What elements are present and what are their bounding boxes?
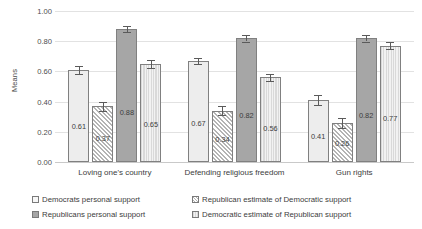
legend-item[interactable]: Democrats personal support	[32, 194, 192, 205]
error-bar-cap	[123, 32, 131, 33]
bar-value-label: 0.88	[117, 108, 136, 117]
bar-value-label: 0.65	[141, 120, 160, 129]
y-tick-label: 0.00	[10, 158, 52, 167]
gridline	[55, 162, 414, 163]
plot-area: 0.610.370.880.650.670.340.820.560.410.26…	[55, 11, 414, 162]
bar-value-label: 0.82	[237, 111, 256, 120]
legend-row: Democrats personal supportRepublican est…	[32, 194, 422, 205]
bar-value-label: 0.61	[69, 122, 88, 131]
error-bar-cap	[147, 68, 155, 69]
error-bar-cap	[266, 81, 274, 82]
error-bar-cap	[314, 95, 322, 96]
error-bar-cap	[99, 102, 107, 103]
error-bar	[342, 118, 343, 128]
error-bar-cap	[386, 42, 394, 43]
error-bar-cap	[194, 58, 202, 59]
legend-item[interactable]: Democratic estimate of Republican suppor…	[192, 209, 422, 220]
legend-swatch-icon	[192, 211, 199, 218]
category-label: Defending religious freedom	[175, 168, 295, 177]
error-bar-cap	[338, 128, 346, 129]
bar: 0.41	[308, 100, 329, 162]
category-label: Loving one's country	[55, 168, 175, 177]
bar-value-label: 0.82	[357, 111, 376, 120]
error-bar	[151, 60, 152, 68]
legend-label: Republican estimate of Democratic suppor…	[202, 194, 351, 205]
y-tick-label: 0.80	[10, 37, 52, 46]
bar-group: 0.410.260.820.77	[294, 11, 414, 162]
error-bar-cap	[314, 105, 322, 106]
category-label: Gun rights	[294, 168, 414, 177]
error-bar	[79, 66, 80, 74]
bar: 0.77	[380, 46, 401, 162]
error-bar-cap	[218, 115, 226, 116]
y-tick-label: 0.20	[10, 127, 52, 136]
error-bar-cap	[147, 60, 155, 61]
legend-item[interactable]: Republicans personal support	[32, 209, 192, 220]
legend-swatch-icon	[192, 196, 199, 203]
error-bar-cap	[266, 74, 274, 75]
error-bar-cap	[194, 64, 202, 65]
error-bar	[222, 106, 223, 114]
error-bar-cap	[218, 106, 226, 107]
legend-label: Democrats personal support	[42, 194, 140, 205]
bar-value-label: 0.41	[309, 132, 328, 141]
bar: 0.26	[332, 123, 353, 162]
bar: 0.65	[140, 64, 161, 162]
y-tick-label: 0.40	[10, 97, 52, 106]
bar: 0.88	[116, 29, 137, 162]
error-bar-cap	[386, 49, 394, 50]
legend-label: Democratic estimate of Republican suppor…	[202, 209, 351, 220]
error-bar-cap	[362, 35, 370, 36]
bar: 0.61	[68, 70, 89, 162]
bar-value-label: 0.34	[213, 135, 232, 144]
error-bar-cap	[338, 118, 346, 119]
legend-item[interactable]: Republican estimate of Democratic suppor…	[192, 194, 422, 205]
bar-value-label: 0.26	[333, 139, 352, 148]
bar-chart: Means 0.000.200.400.600.801.00 0.610.370…	[0, 0, 422, 229]
legend-row: Republicans personal supportDemocratic e…	[32, 209, 422, 220]
bar-value-label: 0.56	[261, 124, 280, 133]
y-tick-label: 0.60	[10, 67, 52, 76]
y-tick-label: 1.00	[10, 7, 52, 16]
bar: 0.37	[92, 106, 113, 162]
bar: 0.67	[188, 61, 209, 162]
error-bar-cap	[75, 74, 83, 75]
chart-legend: Democrats personal supportRepublican est…	[32, 194, 422, 220]
error-bar	[270, 74, 271, 82]
bar-value-label: 0.37	[93, 134, 112, 143]
bar: 0.82	[236, 38, 257, 162]
bar: 0.34	[212, 111, 233, 162]
bar: 0.56	[260, 77, 281, 162]
error-bar	[103, 102, 104, 111]
bar: 0.82	[356, 38, 377, 162]
error-bar	[318, 95, 319, 106]
error-bar-cap	[362, 42, 370, 43]
error-bar-cap	[99, 111, 107, 112]
legend-swatch-icon	[32, 211, 39, 218]
legend-label: Republicans personal support	[42, 209, 145, 220]
legend-swatch-icon	[32, 196, 39, 203]
error-bar-cap	[75, 66, 83, 67]
bar-group: 0.670.340.820.56	[175, 11, 295, 162]
error-bar-cap	[242, 35, 250, 36]
error-bar-cap	[242, 42, 250, 43]
bar-value-label: 0.77	[381, 114, 400, 123]
bar-group: 0.610.370.880.65	[55, 11, 175, 162]
bar-value-label: 0.67	[189, 119, 208, 128]
error-bar-cap	[123, 26, 131, 27]
